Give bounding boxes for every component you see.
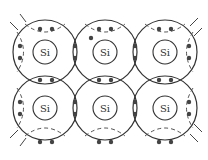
lattice-svg: Si Si Si Si Si Si <box>0 0 208 160</box>
silicon-lattice-diagram: Si Si Si Si Si Si <box>0 0 208 160</box>
atom-label-6: Si <box>160 103 170 114</box>
dashed-arc-right-1 <box>187 32 194 72</box>
atom-label-1: Si <box>40 47 50 58</box>
atom-label-2: Si <box>100 47 110 58</box>
dashed-arc-top-2 <box>85 24 125 32</box>
dashed-arc-left-1 <box>17 32 24 72</box>
dashed-arc-bottom-2 <box>85 128 125 136</box>
dashed-arc-left-2 <box>17 88 24 128</box>
atom-label-3: Si <box>160 47 170 58</box>
atom-label-4: Si <box>40 103 50 114</box>
dashed-arc-top-3 <box>145 24 185 32</box>
dashed-arc-bottom-1 <box>25 128 65 136</box>
dashed-arc-top-1 <box>25 24 65 32</box>
atom-label-5: Si <box>100 103 110 114</box>
dashed-arc-bottom-3 <box>145 128 185 136</box>
dashed-arc-right-2 <box>187 88 194 128</box>
